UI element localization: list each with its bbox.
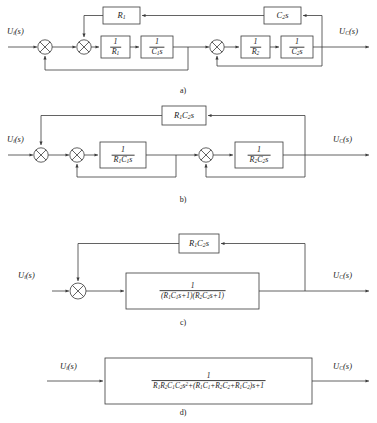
panel-b-block-feedback-r1c2s: R1C2s xyxy=(174,110,194,120)
block-diagram-figure: Ui(s) UC(s) R1 C2s 1R1 1C1s 1R2 1C2s a) … xyxy=(0,0,377,423)
panel-a-input-label: Ui(s) xyxy=(7,27,24,37)
panel-d-caption: d) xyxy=(173,409,193,417)
panel-a-block-inv-c1s: 1C1s xyxy=(149,38,164,57)
diagram-vector-layer xyxy=(0,0,377,423)
panel-c-block-feedback-r1c2s: R1C2s xyxy=(189,238,209,248)
panel-d-output-label: UC(s) xyxy=(333,362,352,372)
panel-a-output-label: UC(s) xyxy=(339,27,358,37)
panel-d-block-transfer-function: 1R1R2C1C2s2+(R1C1+R2C2+R1C2)s+1 xyxy=(151,372,266,390)
panel-a-block-feedback-r1: R1 xyxy=(117,10,125,20)
panel-b-caption: b) xyxy=(173,196,193,204)
panel-a-block-inv-r1: 1R1 xyxy=(110,38,122,57)
panel-a-caption: a) xyxy=(173,87,193,95)
panel-c-input-label: Ui(s) xyxy=(18,271,35,281)
panel-c-caption: c) xyxy=(173,319,193,327)
panel-d-input-label: Ui(s) xyxy=(60,362,77,372)
panel-b-output-label: UC(s) xyxy=(333,135,352,145)
panel-a-block-inv-c2s: 1C2s xyxy=(289,38,304,57)
panel-b-input-label: Ui(s) xyxy=(7,135,24,145)
panel-a-block-inv-r2: 1R2 xyxy=(250,38,262,57)
panel-b-block-stage1: 1R1C1s xyxy=(112,146,135,165)
panel-b-block-stage2: 1R2C2s xyxy=(248,146,271,165)
panel-c-output-label: UC(s) xyxy=(333,271,352,281)
panel-a-vectors xyxy=(8,7,369,70)
panel-c-block-combined: 1(R1C1s+1)(R2C2s+1) xyxy=(159,282,226,300)
panel-a-block-feedback-c2s: C2s xyxy=(277,10,289,20)
